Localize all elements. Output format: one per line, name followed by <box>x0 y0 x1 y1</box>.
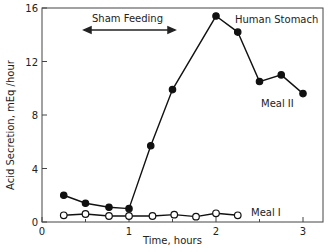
data-point <box>60 212 67 219</box>
data-point <box>126 213 133 220</box>
y-tick-label: 0 <box>32 217 38 228</box>
meal-i-label: Meal I <box>251 207 281 218</box>
data-point <box>278 72 284 78</box>
data-point <box>234 212 241 219</box>
x-tick-label: 2 <box>213 226 219 237</box>
series-markers <box>60 13 306 220</box>
series-line <box>64 16 303 209</box>
plot-frame <box>42 8 323 222</box>
x-tick-label: 3 <box>300 226 306 237</box>
series-lines <box>64 16 303 217</box>
data-point <box>126 205 132 211</box>
data-point <box>171 211 178 218</box>
data-point <box>256 78 262 84</box>
x-tick-label: 0 <box>39 226 45 237</box>
axes: 04812160123 <box>25 3 323 237</box>
x-axis-label: Time, hours <box>142 235 202 246</box>
y-tick-label: 8 <box>32 110 38 121</box>
data-point <box>106 213 113 220</box>
x-tick-label: 1 <box>126 226 132 237</box>
data-point <box>300 90 306 96</box>
data-point <box>213 13 219 19</box>
data-point <box>61 192 67 198</box>
y-tick-label: 16 <box>25 3 38 14</box>
sham-feeding-arrow <box>84 27 175 33</box>
data-point <box>82 211 89 218</box>
data-point <box>82 200 88 206</box>
data-point <box>169 86 175 92</box>
human-stomach-label: Human Stomach <box>235 14 318 25</box>
data-point <box>235 29 241 35</box>
data-point <box>148 143 154 149</box>
data-point <box>149 213 156 220</box>
meal-ii-label: Meal II <box>261 98 294 109</box>
data-point <box>213 210 220 217</box>
y-tick-label: 12 <box>25 57 38 68</box>
acid-secretion-chart: 04812160123 Sham Feeding Human Stomach M… <box>0 0 331 252</box>
y-axis-label: Acid Secretion, mEq /hour <box>5 59 16 190</box>
y-tick-label: 4 <box>32 164 38 175</box>
sham-feeding-label: Sham Feeding <box>92 13 163 24</box>
data-point <box>193 213 200 220</box>
data-point <box>106 204 112 210</box>
